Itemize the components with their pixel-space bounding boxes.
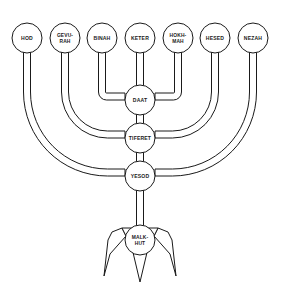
node-label-hod: HOD — [21, 35, 33, 41]
branch-hokhmah-to-daat[interactable] — [155, 52, 182, 100]
node-label-keter: KETER — [131, 35, 149, 41]
node-malkhut[interactable]: MALK- HUT — [125, 225, 155, 255]
node-nezah[interactable]: NEZAH — [238, 23, 268, 53]
node-label-hokhmah-line1: HOKH- — [170, 33, 187, 38]
node-keter[interactable]: KETER — [125, 23, 155, 53]
stem-keter-to-daat[interactable] — [137, 50, 144, 86]
node-circle-gevurah — [50, 23, 80, 53]
node-hokhmah[interactable]: HOKH- MAH — [163, 23, 193, 53]
node-label-yesod: YESOD — [131, 173, 150, 179]
node-tiferet[interactable]: TIFERET — [125, 123, 155, 153]
stem-yesod-to-malkhut[interactable] — [137, 190, 144, 228]
menorah-sefirot-diagram: HOD GEVU- RAH BINAH KETER HOKH- MAH — [0, 0, 281, 286]
node-label-malkhut-line1: MALK- — [132, 235, 149, 240]
node-label-binah: BINAH — [94, 35, 111, 41]
node-label-gevurah-line1: GEVU- — [57, 33, 73, 38]
node-daat[interactable]: DAAT — [125, 85, 155, 115]
node-label-malkhut-line2: HUT — [135, 241, 146, 246]
node-label-nezah: NEZAH — [244, 35, 262, 41]
base-right-foot — [154, 228, 176, 276]
node-label-tiferet: TIFERET — [129, 135, 152, 141]
node-gevurah[interactable]: GEVU- RAH — [50, 23, 80, 53]
node-label-hokhmah-line2: MAH — [172, 39, 184, 44]
node-label-daat: DAAT — [133, 97, 148, 103]
branch-binah-to-daat[interactable] — [99, 52, 126, 100]
node-hesed[interactable]: HESED — [200, 23, 230, 53]
node-label-gevurah-line2: RAH — [59, 39, 70, 44]
node-circle-hokhmah — [163, 23, 193, 53]
node-yesod[interactable]: YESOD — [125, 161, 155, 191]
node-hod[interactable]: HOD — [12, 23, 42, 53]
base-left-foot — [104, 228, 126, 276]
node-label-hesed: HESED — [206, 35, 224, 41]
node-binah[interactable]: BINAH — [87, 23, 117, 53]
menorah-svg-canvas: HOD GEVU- RAH BINAH KETER HOKH- MAH — [0, 0, 281, 286]
node-circle-malkhut — [125, 225, 155, 255]
